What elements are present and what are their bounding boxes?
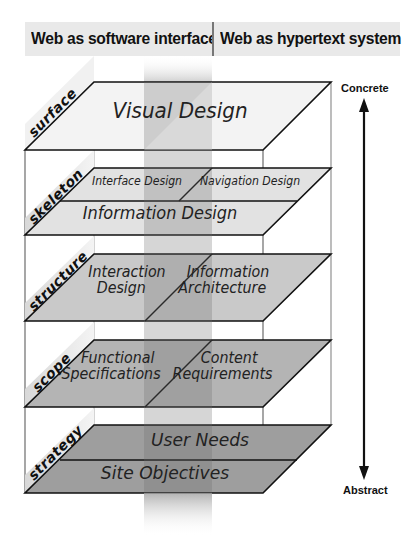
user-needs-label: User Needs — [124, 431, 276, 450]
content-requirements-line2: Requirements — [163, 367, 282, 383]
content-requirements-label: Content Requirements — [163, 351, 282, 383]
band-top-fade — [144, 56, 212, 82]
information-architecture-line2: Architecture — [160, 281, 285, 297]
site-objectives-label: Site Objectives — [84, 464, 246, 483]
elements-of-ux-diagram: Web as software interface Web as hyperte… — [0, 0, 418, 536]
information-architecture-label: Information Architecture — [171, 265, 285, 297]
functional-specifications-line2: Specifications — [49, 367, 173, 383]
visual-design-label: Visual Design — [104, 100, 256, 122]
functional-specifications-label: Functional Specifications — [49, 351, 173, 383]
abstract-label: Abstract — [343, 484, 388, 496]
concrete-abstract-arrow — [359, 98, 369, 480]
band-bottom-fade — [144, 493, 212, 536]
navigation-design-label: Navigation Design — [198, 175, 303, 187]
information-design-label: Information Design — [75, 205, 246, 223]
interface-design-label: Interface Design — [85, 175, 190, 187]
concrete-label: Concrete — [341, 82, 389, 94]
